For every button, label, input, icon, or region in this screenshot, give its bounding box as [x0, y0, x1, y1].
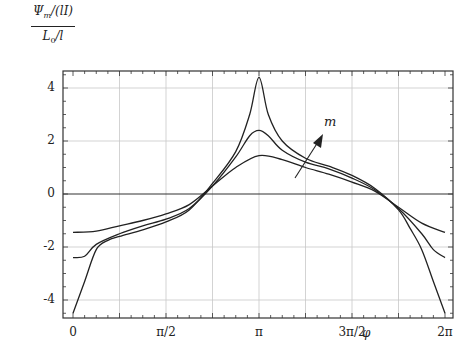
m-arrow-shaft: [295, 142, 318, 178]
y-tick-label: 0: [25, 186, 55, 200]
x-tick-label: π: [234, 325, 284, 339]
y-tick-label: 4: [25, 80, 55, 94]
y-tick-label: -4: [25, 292, 55, 306]
arrow-label-m: m: [324, 114, 336, 129]
x-axis-label: φ: [362, 326, 370, 340]
y-tick-label: 2: [25, 133, 55, 147]
line-chart: [0, 0, 476, 358]
x-tick-label: π/2: [141, 325, 191, 339]
x-tick-label: 2π: [420, 325, 470, 339]
y-tick-label: -2: [25, 239, 55, 253]
x-tick-label: 0: [48, 325, 98, 339]
